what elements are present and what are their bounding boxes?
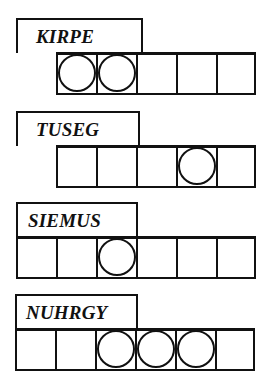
answer-cell[interactable] (216, 148, 256, 188)
answer-cell-circled[interactable] (175, 331, 215, 371)
scrambled-word: KIRPE (36, 27, 94, 46)
answer-cell[interactable] (55, 331, 95, 371)
answer-cell[interactable] (215, 331, 255, 371)
circle-marker-icon (177, 330, 215, 368)
circle-marker-icon (97, 330, 135, 368)
answer-cell-circled[interactable] (96, 55, 136, 95)
answer-cell[interactable] (56, 148, 96, 188)
answer-cell[interactable] (96, 148, 136, 188)
answer-cell-circled[interactable] (176, 148, 216, 188)
answer-cell[interactable] (15, 331, 55, 371)
answer-cell[interactable] (136, 148, 176, 188)
scrambled-word-box: NUHRGY (15, 294, 138, 329)
answer-cell[interactable] (176, 55, 216, 95)
jumble-puzzle: KIRPE TUSEG SIEMUS NUHRGY (0, 0, 270, 379)
scrambled-word-box: TUSEG (16, 111, 140, 146)
answer-cells (56, 52, 256, 95)
scrambled-word-box: KIRPE (16, 18, 143, 53)
answer-cell[interactable] (176, 239, 216, 279)
circle-marker-icon (178, 147, 216, 185)
answer-cell-circled[interactable] (135, 331, 175, 371)
answer-cells (15, 328, 255, 371)
answer-cell[interactable] (136, 55, 176, 95)
scrambled-word-box: SIEMUS (16, 202, 138, 237)
scrambled-word: SIEMUS (28, 211, 101, 230)
answer-cell-circled[interactable] (56, 55, 96, 95)
answer-cell-circled[interactable] (95, 331, 135, 371)
answer-cell[interactable] (56, 239, 96, 279)
answer-cell-circled[interactable] (96, 239, 136, 279)
answer-cell[interactable] (216, 239, 256, 279)
circle-marker-icon (137, 330, 175, 368)
answer-cell[interactable] (136, 239, 176, 279)
answer-cells (56, 145, 256, 188)
answer-cells (16, 236, 256, 279)
scrambled-word: TUSEG (36, 120, 99, 139)
scrambled-word: NUHRGY (26, 303, 107, 322)
answer-cell[interactable] (16, 239, 56, 279)
circle-marker-icon (98, 238, 136, 276)
answer-cell[interactable] (216, 55, 256, 95)
circle-marker-icon (98, 54, 136, 92)
circle-marker-icon (58, 54, 96, 92)
